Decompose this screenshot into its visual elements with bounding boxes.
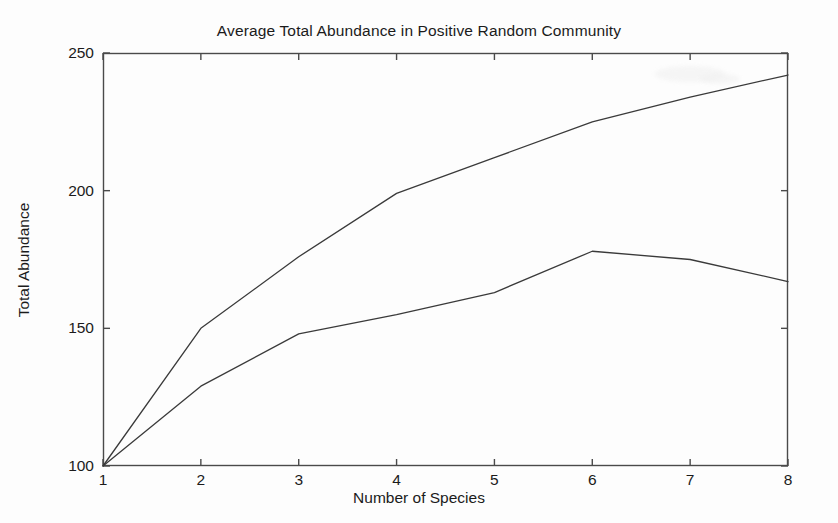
x-axis-title: Number of Species xyxy=(0,489,838,507)
plot-area xyxy=(103,53,788,466)
data-line-lower-curve xyxy=(103,251,788,466)
scan-artifact xyxy=(700,74,740,84)
x-tick-label: 5 xyxy=(490,471,499,489)
chart-title: Average Total Abundance in Positive Rand… xyxy=(0,22,838,40)
y-tick-label: 250 xyxy=(68,44,94,62)
y-tick-label: 100 xyxy=(68,457,94,475)
y-tick-label: 200 xyxy=(68,182,94,200)
x-tick-label: 1 xyxy=(99,471,108,489)
x-tick-label: 8 xyxy=(784,471,793,489)
chart-figure: Average Total Abundance in Positive Rand… xyxy=(0,0,838,523)
x-tick-label: 3 xyxy=(294,471,303,489)
data-series-group xyxy=(103,75,788,466)
x-tick-label: 7 xyxy=(686,471,695,489)
x-tick-label: 2 xyxy=(197,471,206,489)
y-axis-title: Total Abundance xyxy=(15,203,33,318)
x-tick-label: 4 xyxy=(392,471,401,489)
y-tick-label: 150 xyxy=(68,319,94,337)
x-tick-label: 6 xyxy=(588,471,597,489)
plot-svg xyxy=(103,53,788,466)
data-line-upper-curve xyxy=(103,75,788,466)
